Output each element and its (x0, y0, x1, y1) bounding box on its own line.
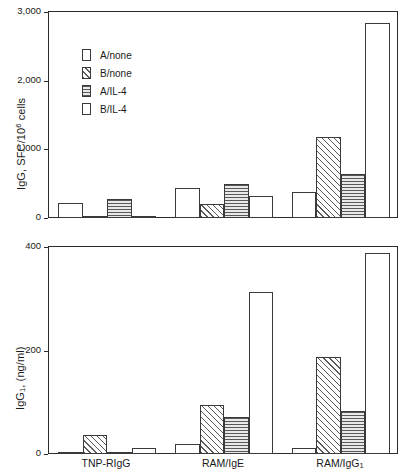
bar-tnp-rigg-a-il-4 (107, 199, 132, 218)
y-tick-label-400: 400 (25, 240, 41, 251)
bar-tnp-rigg-b-none (83, 216, 108, 218)
y-axis-ticks-bottom: 400 200 0 (0, 235, 48, 475)
bar-ram-igg-b-none (316, 357, 341, 454)
legend-label-a-none: A/none (100, 50, 132, 61)
bar-tnp-rigg-b-il-4 (132, 216, 157, 218)
legend-swatch-b-none-icon (82, 67, 91, 79)
bar-ram-ige-b-none (200, 405, 225, 454)
x-label-tnp-rigg: TNP-RIgG (81, 457, 130, 469)
bar-tnp-rigg-b-il-4 (132, 448, 157, 454)
x-label-ram-igg1: RAM/IgG1 (316, 457, 363, 470)
x-label-ram-ige-main: RAM/IgE (202, 457, 244, 469)
bar-ram-igg-a-il-4 (341, 411, 366, 454)
y-tick-mark-0 (44, 218, 48, 219)
bar-ram-ige-a-none (175, 188, 200, 218)
y-tick-label-zero-bottom: 0 (36, 447, 41, 458)
y-tick-label-2000: 2,000 (17, 74, 41, 85)
bar-ram-ige-b-il-4 (249, 196, 274, 218)
bar-ram-igg-b-il-4 (365, 253, 390, 454)
bar-ram-ige-a-il-4 (224, 184, 249, 219)
bar-ram-igg-b-il-4 (365, 23, 390, 218)
bar-tnp-rigg-a-none (58, 203, 83, 218)
legend-item-a-il4: A/IL-4 (82, 83, 132, 99)
bar-tnp-rigg-b-none (83, 435, 108, 454)
y-tick-label-0: 0 (36, 211, 41, 222)
figure-bar-charts: IgG, SFC/106 cells 3,000 2,000 1,000 0 (0, 0, 413, 475)
y-tick-mark-zero-bottom (44, 454, 48, 455)
legend-label-b-none: B/none (100, 68, 132, 79)
legend-swatch-b-il4-icon (82, 103, 91, 115)
legend-swatch-a-none-icon (82, 49, 91, 61)
bar-ram-igg-a-none (292, 448, 317, 454)
x-label-ram-ige: RAM/IgE (202, 457, 244, 469)
y-tick-label-1000: 1,000 (17, 142, 41, 153)
legend-item-b-il4: B/IL-4 (82, 101, 132, 117)
bar-ram-igg-b-none (316, 137, 341, 218)
x-label-tnp-rigg-main: TNP-RIgG (81, 457, 130, 469)
bar-tnp-rigg-a-none (58, 452, 83, 454)
legend-swatch-a-il4-icon (82, 85, 91, 97)
bar-ram-ige-b-il-4 (249, 292, 274, 454)
legend-label-b-il4: B/IL-4 (100, 104, 127, 115)
bars-container-bottom (48, 246, 398, 454)
bar-ram-ige-a-none (175, 444, 200, 454)
x-label-ram-igg1-main: RAM/IgG (316, 457, 359, 469)
y-tick-label-200: 200 (25, 344, 41, 355)
chart-legend: A/none B/none A/IL-4 B/IL-4 (82, 47, 132, 119)
y-tick-label-3000: 3,000 (17, 5, 41, 16)
chart-panel-top: IgG, SFC/106 cells 3,000 2,000 1,000 0 (0, 0, 413, 235)
bar-ram-ige-a-il-4 (224, 417, 249, 454)
legend-label-a-il4: A/IL-4 (100, 86, 127, 97)
bar-ram-ige-b-none (200, 204, 225, 218)
x-label-ram-igg1-subscript: 1 (360, 461, 364, 470)
legend-item-b-none: B/none (82, 65, 132, 81)
y-axis-ticks-top: 3,000 2,000 1,000 0 (0, 0, 48, 235)
x-axis-labels: TNP-RIgG RAM/IgE RAM/IgG1 (48, 457, 398, 475)
chart-panel-bottom: IgG1, (ng/ml) 400 200 0 TNP-RIgG RAM (0, 235, 413, 475)
legend-item-a-none: A/none (82, 47, 132, 63)
bar-ram-igg-a-il-4 (341, 174, 366, 218)
bar-ram-igg-a-none (292, 192, 317, 218)
bar-tnp-rigg-a-il-4 (107, 452, 132, 454)
